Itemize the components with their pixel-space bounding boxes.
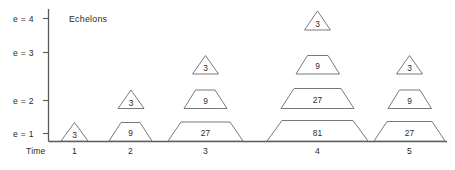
- unit-value-t4-e1: 81: [313, 128, 323, 138]
- diagram-canvas: e = 4 e = 3 e = 2 e = 1 Echelons 3 9 3 2…: [0, 0, 455, 170]
- x-axis-label-5: 5: [407, 146, 412, 156]
- unit-value-t2-e1: 9: [128, 128, 133, 138]
- unit-value-t5-e3: 3: [407, 63, 412, 73]
- unit-value-t4-e2: 27: [313, 95, 323, 105]
- x-axis-label-3: 3: [203, 146, 208, 156]
- echelon-diagram-figure: e = 4 e = 3 e = 2 e = 1 Echelons 3 9 3 2…: [0, 0, 455, 170]
- unit-value-t5-e1: 27: [405, 128, 415, 138]
- x-axis-caption: Time: [26, 146, 46, 156]
- y-axis-label-e4: e = 4: [13, 14, 34, 24]
- y-axis-label-e3: e = 3: [13, 48, 34, 58]
- unit-value-t3-e3: 3: [203, 63, 208, 73]
- unit-value-t4-e4: 3: [315, 19, 320, 29]
- unit-value-t3-e1: 27: [201, 128, 211, 138]
- x-axis-label-4: 4: [315, 146, 320, 156]
- unit-value-t5-e2: 9: [407, 96, 412, 106]
- chart-caption: Echelons: [69, 14, 108, 24]
- x-axis-label-2: 2: [128, 146, 133, 156]
- unit-value-t3-e2: 9: [203, 96, 208, 106]
- unit-value-t4-e3: 9: [315, 61, 320, 71]
- y-axis-label-e1: e = 1: [13, 129, 34, 139]
- unit-value-t2-e2: 3: [129, 98, 134, 108]
- y-axis-label-e2: e = 2: [13, 96, 34, 106]
- unit-value-t1-e1: 3: [72, 130, 77, 140]
- x-axis-label-1: 1: [72, 146, 77, 156]
